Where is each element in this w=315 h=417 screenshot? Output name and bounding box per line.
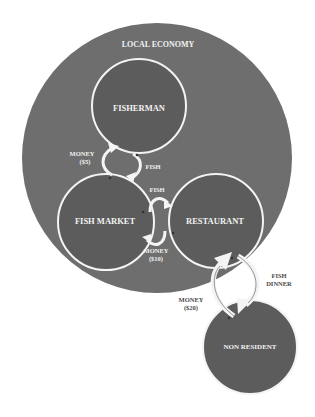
fish-label-2: FISH: [149, 186, 164, 193]
fish-dinner-label-line1: FISH: [271, 272, 286, 279]
restaurant-label: RESTAURANT: [186, 216, 244, 226]
fish-dinner-label-line2: DINNER: [266, 280, 292, 287]
restaurant-node: RESTAURANT: [169, 174, 263, 268]
local-economy-diagram: LOCAL ECONOMY FISHERMAN FISH MARKET REST…: [0, 0, 315, 417]
money-label-10: MONEY: [144, 247, 169, 254]
fish-market-label: FISH MARKET: [75, 216, 136, 226]
money-amount-5: ($5): [80, 158, 91, 166]
money-amount-20: ($20): [184, 304, 198, 312]
fish-market-node: FISH MARKET: [58, 174, 154, 270]
money-amount-10: ($10): [149, 255, 163, 263]
non-resident-node: NON RESIDENT: [203, 300, 297, 394]
local-economy-label: LOCAL ECONOMY: [122, 40, 195, 49]
fish-label-1: FISH: [145, 163, 160, 170]
money-label-20: MONEY: [179, 296, 204, 303]
fisherman-label: FISHERMAN: [113, 103, 166, 113]
non-resident-label: NON RESIDENT: [223, 343, 276, 351]
fisherman-node: FISHERMAN: [92, 59, 186, 153]
money-label-5: MONEY: [70, 150, 95, 157]
